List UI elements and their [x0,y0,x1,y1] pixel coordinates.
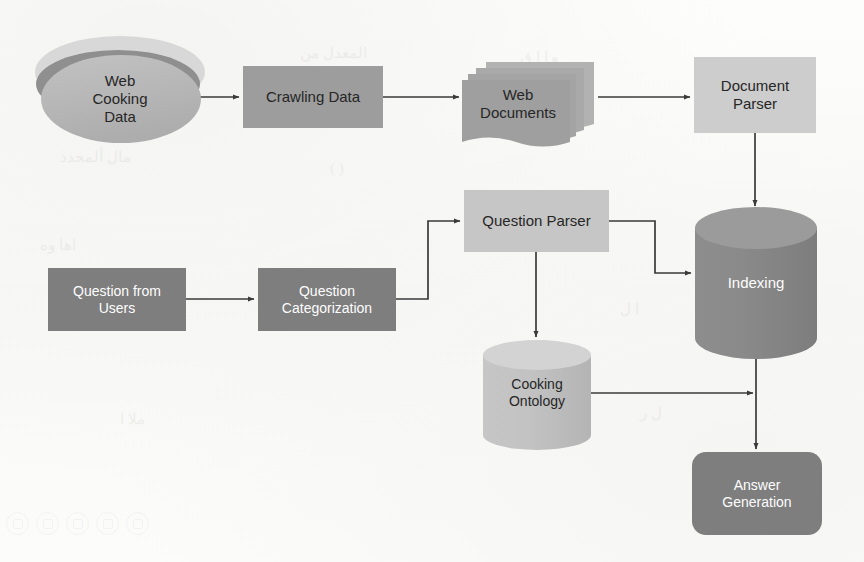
node-crawling-data [243,66,383,128]
node-document-parser [694,57,816,133]
edge-categorization-qparser [396,221,460,299]
node-indexing [695,207,817,359]
diagram-page: المعدل من و ا ا ق مال ألمحدد ( ) اها وه … [0,0,864,562]
node-answer-generation [692,452,822,535]
node-web-documents [462,62,594,147]
node-web-cooking-data [35,36,205,143]
node-question-categorization [258,268,396,331]
diagram-canvas [0,0,864,562]
node-question-parser [464,190,609,252]
node-cooking-ontology [483,340,591,450]
edge-qparser-indexing [609,221,691,273]
node-question-from-users [48,268,186,331]
